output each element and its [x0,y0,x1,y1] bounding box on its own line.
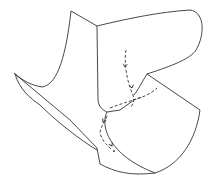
surface-edge [107,100,134,112]
surface-outline [14,10,202,174]
trajectory-paths [100,50,157,150]
surface-diagram [0,0,211,183]
folded-surface-figure [0,0,211,183]
dashed-trajectory [125,50,134,108]
trajectory-arrowheads [101,64,134,147]
dashed-trajectory [110,97,142,108]
surface-edge [14,10,202,174]
surface-edge [134,74,147,95]
trajectory-endpoint-dot [113,150,115,152]
surface-edge [97,26,107,112]
arrowhead-icon [130,85,134,89]
surface-edge [15,74,97,150]
dashed-trajectory [133,88,157,100]
